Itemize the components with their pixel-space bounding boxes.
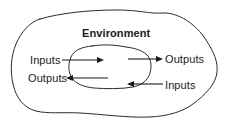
inputs-left-label: Inputs xyxy=(30,54,61,66)
flow-arrow-outputs-left xyxy=(66,75,108,81)
flow-arrow-outputs-right xyxy=(128,56,163,62)
outputs-right-label: Outputs xyxy=(165,53,204,65)
flow-arrow-inputs-left xyxy=(62,57,104,63)
system-boundary-shape xyxy=(69,45,151,89)
outputs-left-label: Outputs xyxy=(28,72,67,84)
flow-arrow-inputs-right-head xyxy=(127,81,134,87)
flow-arrow-outputs-right-head xyxy=(156,56,163,62)
flow-arrow-inputs-left-head xyxy=(97,57,104,63)
environment-system-diagram: Environment Inputs Outputs Outputs Input… xyxy=(0,0,231,128)
inputs-right-label: Inputs xyxy=(165,79,196,91)
environment-label: Environment xyxy=(82,27,150,39)
